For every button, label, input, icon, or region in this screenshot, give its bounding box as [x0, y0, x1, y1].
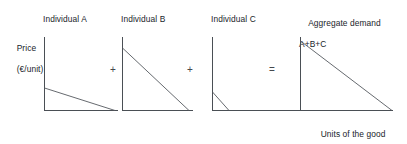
panel-title-individual-a: Individual A	[43, 14, 87, 24]
plot-individual-b	[118, 34, 198, 114]
x-axis-label: Units of the good (resource)	[311, 119, 385, 144]
demand-curve-individual-c	[213, 92, 230, 111]
demand-curve-individual-b	[123, 48, 190, 111]
plot-svg-individual-a	[40, 34, 122, 114]
y-axis-label: Price (€/unit)	[7, 33, 43, 84]
plot-svg-individual-c	[208, 34, 304, 114]
panel-title-individual-b: Individual B	[121, 14, 165, 24]
panel-title-individual-c: Individual C	[211, 14, 256, 24]
panel-title-aggregate-line1: Aggregate demand	[308, 18, 381, 28]
plot-individual-a	[40, 34, 122, 114]
plot-individual-c	[208, 34, 304, 114]
plot-svg-individual-b	[118, 34, 198, 114]
plot-aggregate-demand	[296, 34, 396, 114]
demand-aggregation-figure: Price (€/unit) Individual A Individual B…	[0, 0, 407, 144]
y-axis-label-line1: Price	[17, 43, 37, 53]
x-axis-label-line1: Units of the good	[321, 129, 386, 139]
plot-svg-aggregate	[296, 34, 396, 114]
demand-curve-aggregate	[301, 41, 393, 111]
demand-curve-individual-a	[45, 88, 116, 111]
